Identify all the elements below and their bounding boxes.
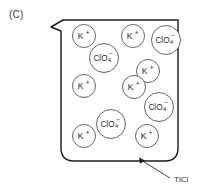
ion-k-7: K +: [136, 125, 159, 148]
svg-text:4: 4: [163, 106, 166, 112]
svg-text:+: +: [135, 29, 139, 36]
svg-text:4: 4: [170, 39, 173, 45]
svg-text:ClO: ClO: [100, 120, 114, 129]
svg-text:K: K: [128, 82, 134, 92]
svg-text:+: +: [86, 129, 90, 136]
svg-text:K: K: [142, 66, 148, 76]
ion-clo4-4: ClO 4 −: [97, 110, 126, 139]
svg-text:+: +: [86, 29, 90, 36]
ion-k-6: K +: [73, 125, 96, 148]
svg-text:4: 4: [108, 57, 111, 63]
svg-text:K: K: [127, 31, 133, 41]
svg-text:ClO: ClO: [155, 36, 169, 45]
svg-text:−: −: [116, 116, 120, 123]
ion-clo4-3: ClO 4 −: [145, 93, 174, 122]
svg-text:+: +: [136, 80, 140, 87]
svg-text:−: −: [109, 50, 113, 57]
svg-text:+: +: [86, 79, 90, 86]
chemistry-figure-panel-c: (C) K +: [0, 0, 200, 192]
svg-text:−: −: [164, 99, 168, 106]
svg-text:−: −: [171, 32, 175, 39]
svg-text:4: 4: [115, 123, 118, 129]
svg-text:ClO: ClO: [148, 103, 162, 112]
ion-k-1: K +: [73, 25, 96, 48]
svg-text:+: +: [150, 64, 154, 71]
svg-text:K: K: [78, 31, 84, 41]
ion-clo4-1: ClO 4 −: [152, 26, 181, 55]
ion-clo4-2: ClO 4 −: [90, 44, 119, 73]
ion-k-5: K +: [123, 76, 146, 99]
svg-text:K: K: [78, 81, 84, 91]
svg-text:ClO: ClO: [93, 54, 107, 63]
ion-k-2: K +: [122, 25, 145, 48]
tlcl-callout-label: TlCl: [174, 175, 188, 184]
ion-k-4: K +: [73, 75, 96, 98]
svg-text:K: K: [141, 131, 147, 141]
svg-text:K: K: [78, 131, 84, 141]
svg-text:+: +: [149, 129, 153, 136]
beaker-illustration: K + K + ClO 4 − ClO 4 −: [0, 0, 200, 192]
